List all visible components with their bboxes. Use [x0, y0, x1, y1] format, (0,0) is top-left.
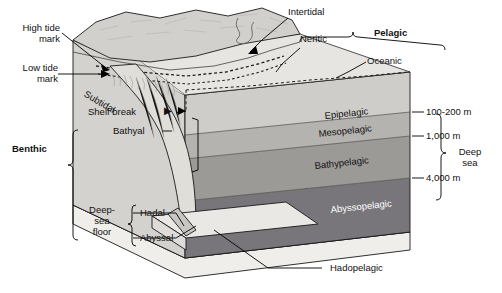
label-deep-sea-floor: Deep- sea floor: [76, 204, 128, 237]
label-hadopelagic: Hadopelagic: [330, 262, 383, 273]
label-abyssal: Abyssal: [140, 232, 173, 243]
label-bathyal: Bathyal: [113, 125, 145, 136]
label-hadal: Hadal: [140, 207, 165, 218]
label-pelagic: Pelagic: [374, 27, 407, 38]
depth-4000m: 4,000 m: [426, 172, 460, 183]
shelf-break-arrow-icon: ▶: [164, 105, 172, 116]
label-neritic: Neritic: [300, 33, 327, 44]
block-diagram-graphic: [0, 0, 502, 293]
depth-1000m: 1,000 m: [426, 130, 460, 141]
depth-100-200m: 100-200 m: [426, 106, 471, 117]
bracket-deep-sea: [436, 114, 446, 200]
label-intertidal: Intertidal: [288, 6, 324, 17]
label-oceanic: Oceanic: [367, 55, 402, 66]
label-low-tide-mark: Low tide mark: [2, 62, 58, 84]
label-shelf-break: Shelf break: [88, 106, 136, 117]
label-high-tide-mark: High tide mark: [2, 22, 60, 44]
label-benthic: Benthic: [12, 143, 47, 154]
ocean-zonation-diagram: High tide mark Low tide mark Intertidal …: [0, 0, 502, 293]
label-deep-sea: Deep sea: [448, 146, 492, 168]
